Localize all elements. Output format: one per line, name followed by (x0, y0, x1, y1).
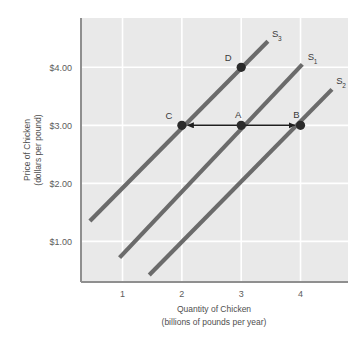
curve-label-subscript-S3: 3 (278, 35, 282, 42)
y-tick-label: $3.00 (49, 121, 72, 131)
curve-label-subscript-S1: 1 (314, 58, 318, 65)
y-tick-label: $4.00 (49, 63, 72, 73)
data-point-D (237, 63, 246, 72)
data-point-label-C: C (165, 110, 172, 121)
x-axis-tick-labels: 1234 (120, 289, 303, 299)
x-axis-title: Quantity of Chicken (177, 304, 251, 314)
data-point-B (296, 121, 305, 130)
x-axis-subtitle: (billions of pounds per year) (162, 317, 267, 327)
data-point-C (177, 121, 186, 130)
data-point-label-A: A (235, 109, 242, 120)
supply-curve-figure: S3S1S2 DCAB 1234 $1.00$2.00$3.00$4.00 Qu… (0, 0, 355, 349)
y-tick-label: $2.00 (49, 179, 72, 189)
data-point-label-B: B (293, 109, 299, 120)
x-tick-label: 4 (298, 289, 303, 299)
x-tick-label: 2 (179, 289, 184, 299)
x-tick-label: 1 (120, 289, 125, 299)
data-point-A (237, 121, 246, 130)
chart-canvas: S3S1S2 DCAB 1234 $1.00$2.00$3.00$4.00 Qu… (0, 0, 355, 349)
data-point-label-D: D (225, 52, 232, 63)
y-axis-subtitle: (dollars per pound) (33, 114, 43, 186)
y-axis-tick-labels: $1.00$2.00$3.00$4.00 (49, 63, 72, 247)
y-axis-title: Price of Chicken (22, 119, 32, 181)
y-tick-label: $1.00 (49, 237, 72, 247)
curve-label-subscript-S2: 2 (342, 82, 346, 89)
x-tick-label: 3 (239, 289, 244, 299)
